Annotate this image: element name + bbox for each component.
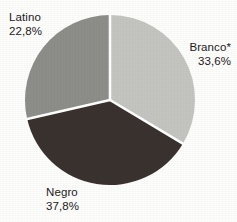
pie-label-negro: Negro 37,8% (46, 186, 79, 213)
pie-label-latino-name: Latino (9, 11, 42, 25)
pie-label-branco-value: 33,6% (189, 55, 231, 69)
pie-label-latino: Latino 22,8% (9, 11, 42, 38)
pie-chart: Latino 22,8% Branco* 33,6% Negro 37,8% (0, 0, 237, 222)
pie-label-branco: Branco* 33,6% (189, 41, 231, 68)
pie-label-negro-value: 37,8% (46, 200, 79, 214)
pie-label-latino-value: 22,8% (9, 25, 42, 39)
pie-label-branco-name: Branco* (189, 41, 231, 55)
pie-label-negro-name: Negro (46, 186, 79, 200)
